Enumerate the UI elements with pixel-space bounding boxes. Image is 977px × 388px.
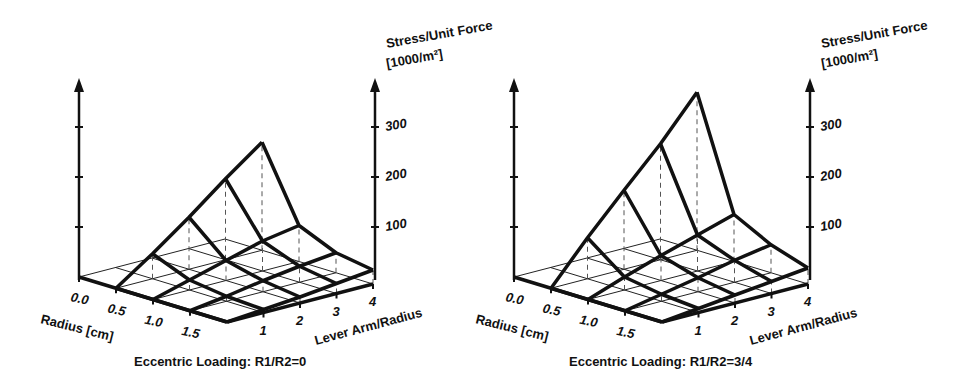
chart-caption: Eccentric Loading: R1/R2=3/4 [569,354,753,369]
chart-eccentric-0: Stress/Unit Force [1000/m²] Radius [cm] … [39,17,493,369]
x-tick-label: 1.5 [615,323,637,342]
x-axis-title: Radius [cm] [39,311,115,344]
y-tick-label: 1 [695,323,702,338]
x-tick-label: 1.5 [180,323,202,342]
arrow-up-icon [74,78,84,92]
arrow-up-icon [370,78,380,92]
y-tick-label: 2 [730,313,739,328]
y-tick-label: 1 [260,323,267,338]
tick-labels: 0.00.51.01.51234100200300 [69,115,408,341]
figure: Stress/Unit Force [1000/m²] Radius [cm] … [0,0,977,388]
stress-surface [551,92,808,322]
y-axis-title: Lever Arm/Radius [748,305,859,348]
y-tick-label: 4 [803,294,812,309]
z-axis-title-line2: [1000/m²] [820,46,879,71]
z-tick-label: 200 [383,165,409,184]
x-tick-label: 1.0 [143,312,165,331]
z-tick-label: 100 [819,215,844,234]
chart-eccentric-1: Stress/Unit Force [1000/m²] Radius [cm] … [474,17,928,369]
z-tick-label: 300 [819,115,844,134]
surface-line-lever [624,190,735,295]
y-tick-label: 3 [768,304,776,319]
surface-line-lever [661,144,772,282]
y-tick-label: 4 [368,294,377,309]
arrow-up-icon [509,78,519,92]
z-tick-label: 200 [818,165,844,184]
x-tick-label: 0.5 [541,301,563,320]
y-axis-title: Lever Arm/Radius [313,305,424,348]
arrow-up-icon [805,78,815,92]
x-tick-label: 0.0 [504,289,526,308]
surface-line-lever [153,254,264,310]
y-tick-label: 3 [333,304,341,319]
surface-line-lever [588,238,699,309]
x-axis-title: Radius [cm] [474,311,550,344]
x-tick-label: 1.0 [578,312,600,331]
chart-caption: Eccentric Loading: R1/R2=0 [134,354,306,369]
z-tick-label: 100 [384,215,409,234]
y-tick-label: 2 [295,313,304,328]
surface-line-lever [697,92,808,268]
z-tick-label: 300 [384,115,409,134]
tick-labels: 0.00.51.01.51234100200300 [504,115,843,341]
x-tick-label: 0.0 [69,289,91,308]
x-tick-label: 0.5 [106,301,128,320]
z-axis-title-line2: [1000/m²] [385,46,444,71]
